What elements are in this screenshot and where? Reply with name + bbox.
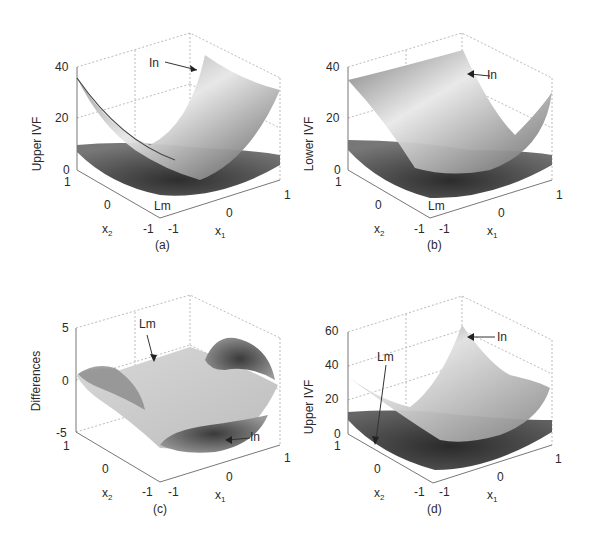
z-tick-c-5: 5 <box>62 321 69 335</box>
x-tick-b-0: 0 <box>498 206 505 220</box>
x-tick-d-0: 0 <box>497 470 504 484</box>
y-tick-b-neg1: -1 <box>414 222 425 236</box>
panel-c: Lm In Differences 5 0 -5 1 0 -1 -1 0 1 x… <box>0 270 295 541</box>
caption-b: (b) <box>427 238 442 252</box>
z-axis-label-c: Differences <box>29 351 43 411</box>
caption-a: (a) <box>155 238 170 252</box>
y-tick-c-0: 0 <box>102 462 109 476</box>
x-tick-c-0: 0 <box>226 470 233 484</box>
annotation-lm-b: Lm <box>428 199 445 213</box>
x-tick-d-1: 1 <box>555 452 562 466</box>
y-tick-d-neg1: -1 <box>414 485 425 499</box>
z-tick-c-neg5: -5 <box>56 426 67 440</box>
y-axis-label-a: x2 <box>102 222 112 238</box>
z-axis-label-d: Upper IVF <box>302 380 316 435</box>
y-axis-label-b: x2 <box>374 222 384 238</box>
y-tick-d-1: 1 <box>334 439 341 453</box>
caption-c: (c) <box>153 502 167 516</box>
x-axis-label-b: x1 <box>487 224 497 240</box>
x-tick-c-neg1: -1 <box>168 485 179 499</box>
z-tick-a-40: 40 <box>55 60 68 74</box>
caption-d: (d) <box>427 502 442 516</box>
y-tick-b-0: 0 <box>375 198 382 212</box>
annotation-lm-c: Lm <box>139 317 156 331</box>
x-axis-label-c: x1 <box>215 488 225 504</box>
z-tick-d-40: 40 <box>325 358 338 372</box>
y-tick-a-neg1: -1 <box>143 222 154 236</box>
y-axis-label-c: x2 <box>102 486 112 502</box>
z-axis-label-a: Upper IVF <box>30 117 44 172</box>
y-tick-a-1: 1 <box>64 175 71 189</box>
x-axis-label-a: x1 <box>215 224 225 240</box>
y-tick-c-neg1: -1 <box>142 485 153 499</box>
annotation-in-b: In <box>487 68 497 82</box>
y-tick-c-1: 1 <box>63 439 70 453</box>
annotation-in-d: In <box>497 330 507 344</box>
surface-plot-c <box>0 270 295 543</box>
panel-b: In Lm Lower IVF 40 20 0 1 0 -1 -1 0 1 x2… <box>290 0 585 271</box>
x-axis-label-d: x1 <box>487 488 497 504</box>
annotation-in-a: In <box>149 56 159 70</box>
z-tick-b-20: 20 <box>326 111 339 125</box>
z-tick-b-40: 40 <box>326 60 339 74</box>
annotation-lm-d: Lm <box>377 350 394 364</box>
x-tick-a-0: 0 <box>226 206 233 220</box>
z-axis-label-b: Lower IVF <box>302 117 316 172</box>
y-tick-a-0: 0 <box>104 198 111 212</box>
x-tick-a-neg1: -1 <box>168 222 179 236</box>
annotation-lm-a: Lm <box>154 199 171 213</box>
z-tick-d-20: 20 <box>325 392 338 406</box>
x-tick-b-1: 1 <box>556 188 563 202</box>
z-tick-c-0: 0 <box>62 374 69 388</box>
panel-a: In Lm Upper IVF 40 20 0 1 0 -1 -1 0 1 x2… <box>0 0 295 271</box>
x-tick-b-neg1: -1 <box>439 222 450 236</box>
z-tick-d-60: 60 <box>325 324 338 338</box>
annotation-in-c: In <box>250 430 260 444</box>
panel-d: In Lm Upper IVF 60 40 20 0 1 0 -1 -1 0 1… <box>290 270 585 541</box>
y-tick-d-0: 0 <box>374 462 381 476</box>
z-tick-a-20: 20 <box>55 111 68 125</box>
x-tick-d-neg1: -1 <box>439 485 450 499</box>
y-tick-b-1: 1 <box>335 175 342 189</box>
y-axis-label-d: x2 <box>374 486 384 502</box>
